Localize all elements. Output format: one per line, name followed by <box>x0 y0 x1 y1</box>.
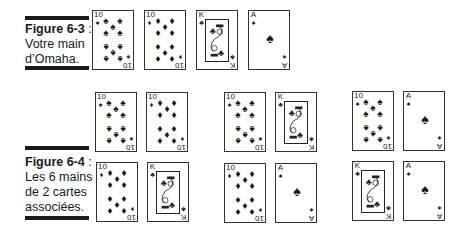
caption-bottom-rule <box>25 66 89 70</box>
suit-pip-icon: ♠ <box>101 54 111 64</box>
playing-card: 10♦♦♦♦♦♦♦♦♦♦♦10♦ <box>144 10 186 70</box>
svg-text:♣: ♣ <box>374 199 380 209</box>
suit-pip-icon: ♦ <box>153 54 163 64</box>
suit-pip-icon: ♠ <box>233 136 243 146</box>
card-index-bottom: 10♦ <box>257 207 264 222</box>
caption-top-rule <box>25 16 89 20</box>
caption-line: de 2 cartes <box>25 185 87 199</box>
suit-pip-icon: ♦ <box>233 181 243 191</box>
suit-pip-icon: ♠ <box>101 28 111 38</box>
card-index-bottom: 10♠ <box>125 54 132 69</box>
suit-pip-icon: ♦ <box>105 180 115 190</box>
card-index: 10♠ <box>226 93 233 108</box>
card-index: 10♠ <box>94 11 101 26</box>
card-index-bottom: K♣ <box>229 54 236 69</box>
playing-card: 10♠♠♠♠♠♠♠♠♠♠♠10♠ <box>92 10 134 70</box>
caption-text: Figure 6-4 : Les 6 mains de 2 cartes ass… <box>25 155 92 215</box>
card-index-bottom: A♠ <box>281 54 288 69</box>
card-index-bottom: 10♠ <box>385 135 392 150</box>
suit-pip-icon: ♠ <box>118 110 128 120</box>
card-index: 10♦ <box>148 93 155 108</box>
playing-card: A♠♠A♠ <box>403 161 445 221</box>
svg-text:♣: ♣ <box>169 200 175 210</box>
suit-pip-icon: ♠ <box>104 110 114 120</box>
card-index: A♠ <box>405 92 412 107</box>
caption-top-rule <box>25 146 89 150</box>
playing-card: 10♠♠♠♠♠♠♠♠♠♠♠10♠ <box>224 92 266 152</box>
suit-pip-icon: ♦ <box>153 28 163 38</box>
caption-line: associées. <box>25 200 84 214</box>
caption-bottom-rule <box>25 216 89 220</box>
suit-pip-icon: ♠ <box>115 28 125 38</box>
king-portrait-icon: ♣♣ <box>156 171 180 214</box>
caption-line: Votre main <box>25 37 85 51</box>
card-index-bottom: K♣ <box>385 205 392 220</box>
suit-pip-icon: ♠ <box>375 109 385 119</box>
card-index-bottom: A♠ <box>436 205 443 220</box>
svg-text:♣: ♣ <box>297 130 303 140</box>
suit-pip-icon: ♦ <box>167 28 177 38</box>
suit-pip-icon: ♠ <box>247 110 257 120</box>
card-index-bottom: A♠ <box>436 135 443 150</box>
caption-line: d’Omaha. <box>25 52 79 66</box>
suit-pip-icon: ♦ <box>119 180 129 190</box>
card-index: A♠ <box>405 162 412 177</box>
suit-pip-icon: ♠ <box>233 110 243 120</box>
ace-spade-icon: ♠ <box>290 184 304 198</box>
figure-label: Figure 6-3 <box>25 22 85 36</box>
king-portrait-icon: ♣♣ <box>361 170 385 213</box>
playing-card: 10♦♦♦♦♦♦♦♦♦♦♦10♦ <box>224 163 266 223</box>
figure-label: Figure 6-4 <box>25 155 85 169</box>
card-index: 10♦ <box>98 163 105 178</box>
card-index-bottom: 10♦ <box>179 136 186 151</box>
card-index-bottom: 10♦ <box>177 54 184 69</box>
card-index-bottom: 10♠ <box>257 136 264 151</box>
ace-spade-icon: ♠ <box>263 31 277 45</box>
card-index-bottom: 10♠ <box>128 136 135 151</box>
playing-card: A♠♠A♠ <box>275 163 317 223</box>
playing-card: 10♦♦♦♦♦♦♦♦♦♦♦10♦ <box>146 92 188 152</box>
card-index: 10♠ <box>97 93 104 108</box>
suit-pip-icon: ♠ <box>361 135 371 145</box>
card-index: K♣ <box>277 93 284 108</box>
playing-card: A♠♠A♠ <box>403 91 445 151</box>
playing-card: K♣♣♣K♣ <box>147 162 189 222</box>
card-index-bottom: 10♦ <box>129 206 136 221</box>
svg-text:♣: ♣ <box>161 178 167 188</box>
playing-card: 10♦♦♦♦♦♦♦♦♦♦♦10♦ <box>96 162 138 222</box>
card-index: 10♦ <box>146 11 153 26</box>
playing-card: K♣♣♣K♣ <box>352 161 394 221</box>
playing-card: K♣♣♣K♣ <box>275 92 317 152</box>
playing-card: 10♠♠♠♠♠♠♠♠♠♠♠10♠ <box>352 91 394 151</box>
card-index-bottom: A♠ <box>308 207 315 222</box>
figure-6-3-caption: Figure 6-3 : Votre main d’Omaha. <box>25 16 89 70</box>
suit-pip-icon: ♦ <box>169 110 179 120</box>
card-index: 10♦ <box>226 164 233 179</box>
ace-spade-icon: ♠ <box>418 182 432 196</box>
card-index-bottom: K♣ <box>180 206 187 221</box>
suit-pip-icon: ♠ <box>104 136 114 146</box>
card-index: K♣ <box>149 163 156 178</box>
caption-text: Figure 6-3 : Votre main d’Omaha. <box>25 22 92 67</box>
suit-pip-icon: ♦ <box>155 136 165 146</box>
svg-text:♣: ♣ <box>210 26 216 36</box>
caption-line: Les 6 mains <box>25 170 92 184</box>
figure-6-4-caption: Figure 6-4 : Les 6 mains de 2 cartes ass… <box>25 146 89 220</box>
suit-pip-icon: ♦ <box>247 181 257 191</box>
card-index: K♣ <box>354 162 361 177</box>
playing-card: A♠♠A♠ <box>248 10 290 70</box>
card-index: A♠ <box>277 164 284 179</box>
svg-text:♣: ♣ <box>218 48 224 58</box>
suit-pip-icon: ♦ <box>233 207 243 217</box>
card-index: A♠ <box>250 11 257 26</box>
svg-text:♣: ♣ <box>366 177 372 187</box>
playing-card: K♣♣♣K♣ <box>196 10 238 70</box>
suit-pip-icon: ♦ <box>105 206 115 216</box>
suit-pip-icon: ♠ <box>361 109 371 119</box>
king-portrait-icon: ♣♣ <box>284 101 308 144</box>
ace-spade-icon: ♠ <box>418 112 432 126</box>
playing-card: 10♠♠♠♠♠♠♠♠♠♠♠10♠ <box>95 92 137 152</box>
card-index-bottom: K♣ <box>308 136 315 151</box>
king-portrait-icon: ♣♣ <box>205 19 229 62</box>
svg-text:♣: ♣ <box>289 108 295 118</box>
